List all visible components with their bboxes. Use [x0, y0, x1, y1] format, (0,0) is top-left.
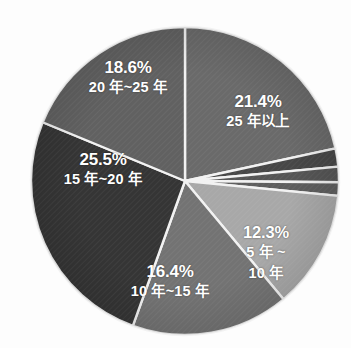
pie-edge-shading [31, 27, 339, 335]
pie-chart: 18.6% 20 年~25 年 21.4% 25 年以上 25.5% 15 年~… [0, 0, 351, 348]
pie-chart-canvas [0, 0, 351, 348]
pie-texture-overlay [31, 27, 339, 335]
